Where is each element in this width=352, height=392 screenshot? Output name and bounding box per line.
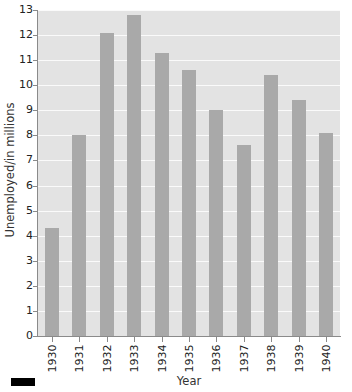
x-axis-tick-label-wrap: 1935 bbox=[181, 345, 197, 387]
x-axis-tick bbox=[162, 337, 163, 342]
y-axis-tick-label: 7 bbox=[3, 154, 33, 165]
y-axis-tick bbox=[33, 236, 37, 237]
y-axis-tick-label: 1 bbox=[3, 305, 33, 316]
x-axis-tick bbox=[244, 337, 245, 342]
y-axis-tick bbox=[33, 10, 37, 11]
x-axis-tick-label-wrap: 1933 bbox=[126, 345, 142, 387]
y-axis-tick-label: 11 bbox=[3, 54, 33, 65]
x-axis-tick-label: 1934 bbox=[155, 357, 168, 373]
x-axis-tick bbox=[299, 337, 300, 342]
x-axis-tick-label-wrap: 1931 bbox=[71, 345, 87, 387]
x-axis-tick-label-wrap: 1930 bbox=[44, 345, 60, 387]
gridline bbox=[38, 60, 340, 61]
x-axis-tick bbox=[52, 337, 53, 342]
y-axis-tick bbox=[33, 35, 37, 36]
bar bbox=[292, 100, 306, 336]
bar bbox=[209, 110, 223, 336]
y-axis-tick bbox=[33, 261, 37, 262]
y-axis-tick-label: 9 bbox=[3, 104, 33, 115]
x-axis-tick-label-wrap: 1932 bbox=[99, 345, 115, 387]
x-axis-tick bbox=[216, 337, 217, 342]
y-axis-tick bbox=[33, 110, 37, 111]
y-axis-tick bbox=[33, 186, 37, 187]
bar bbox=[264, 75, 278, 336]
x-axis-tick-label: 1931 bbox=[73, 357, 86, 373]
x-axis-tick-label-wrap: 1937 bbox=[236, 345, 252, 387]
x-axis-tick-label: 1937 bbox=[237, 357, 250, 373]
y-axis-tick-label: 8 bbox=[3, 129, 33, 140]
y-axis-tick-label: 0 bbox=[3, 330, 33, 341]
x-axis-tick bbox=[79, 337, 80, 342]
x-axis-tick-label: 1930 bbox=[45, 357, 58, 373]
legend-swatch bbox=[11, 378, 35, 386]
bar bbox=[72, 135, 86, 336]
y-axis-tick bbox=[33, 135, 37, 136]
x-axis-tick-label: 1939 bbox=[292, 357, 305, 373]
x-axis-tick-label: 1938 bbox=[265, 357, 278, 373]
y-axis-tick-label: 5 bbox=[3, 205, 33, 216]
x-axis-tick-label: 1932 bbox=[100, 357, 113, 373]
x-axis-tick-label-wrap: 1936 bbox=[208, 345, 224, 387]
x-axis-tick bbox=[107, 337, 108, 342]
x-axis-tick-label-wrap: 1939 bbox=[291, 345, 307, 387]
y-axis-tick bbox=[33, 85, 37, 86]
plot-area bbox=[38, 10, 340, 336]
y-axis-tick bbox=[33, 336, 37, 337]
y-axis-tick bbox=[33, 311, 37, 312]
x-axis-tick bbox=[189, 337, 190, 342]
bar bbox=[100, 33, 114, 336]
y-axis-tick bbox=[33, 286, 37, 287]
y-axis-tick-label: 3 bbox=[3, 255, 33, 266]
y-axis-tick-label: 10 bbox=[3, 79, 33, 90]
y-axis-tick bbox=[33, 60, 37, 61]
y-axis-tick-label: 12 bbox=[3, 29, 33, 40]
x-axis-tick bbox=[326, 337, 327, 342]
y-axis-tick-label: 6 bbox=[3, 180, 33, 191]
y-axis-tick bbox=[33, 160, 37, 161]
gridline bbox=[38, 10, 340, 11]
x-axis-tick-label-wrap: 1934 bbox=[154, 345, 170, 387]
bar bbox=[237, 145, 251, 336]
bar bbox=[319, 133, 333, 336]
bar bbox=[127, 15, 141, 336]
x-axis-tick-label: 1935 bbox=[183, 357, 196, 373]
bar bbox=[155, 53, 169, 336]
x-axis-tick bbox=[271, 337, 272, 342]
gridline bbox=[38, 35, 340, 36]
x-axis-tick-label: 1936 bbox=[210, 357, 223, 373]
bar bbox=[182, 70, 196, 336]
y-axis-tick-label: 13 bbox=[3, 4, 33, 15]
bar-chart: Unemployed/in millions 01234567891011121… bbox=[0, 0, 352, 392]
x-axis-tick bbox=[134, 337, 135, 342]
x-axis-tick-label-wrap: 1938 bbox=[263, 345, 279, 387]
y-axis-line bbox=[37, 10, 38, 337]
x-axis-tick-label-wrap: 1940 bbox=[318, 345, 334, 387]
y-axis-tick-label: 2 bbox=[3, 280, 33, 291]
x-axis-tick-label: 1933 bbox=[128, 357, 141, 373]
y-axis-tick-labels: 012345678910111213 bbox=[0, 0, 33, 392]
bar bbox=[45, 228, 59, 336]
y-axis-tick bbox=[33, 211, 37, 212]
x-axis-tick-label: 1940 bbox=[320, 357, 333, 373]
y-axis-tick-label: 4 bbox=[3, 230, 33, 241]
